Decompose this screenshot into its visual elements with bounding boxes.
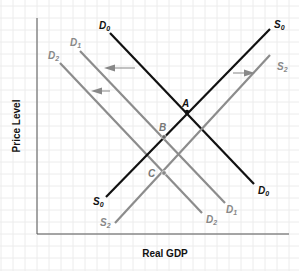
label-d2-bottom: D2 (206, 214, 217, 226)
point-label-b: B (159, 122, 166, 133)
equilibrium-point-c (162, 171, 167, 176)
grid (0, 0, 299, 271)
x-axis-title: Real GDP (142, 248, 188, 259)
label-d1: D1 (70, 37, 81, 49)
label-s2-top: S2 (277, 61, 288, 73)
label-d2: D2 (48, 50, 59, 62)
label-s0-top: S0 (274, 19, 285, 31)
label-d0-bottom: D0 (258, 185, 269, 197)
demand-shift-arrow-2 (91, 88, 110, 95)
equilibrium-point-a (185, 110, 190, 115)
point-label-c: C (148, 168, 156, 179)
equilibrium-point-b (162, 135, 167, 140)
label-d1-bottom: D1 (226, 204, 237, 216)
ad-as-diagram: Price Level Real GDP A B C D0 D1 D2 S0 S… (0, 0, 299, 271)
y-axis-title: Price Level (11, 99, 22, 152)
point-label-a: A (181, 98, 189, 109)
